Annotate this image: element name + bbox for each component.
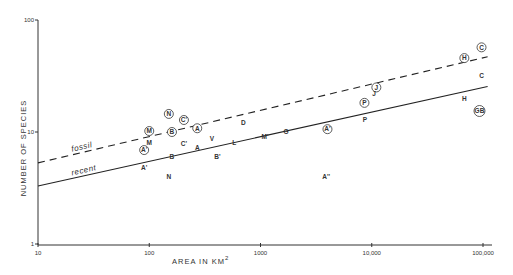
point-label: C: [479, 44, 484, 51]
point-label: J: [372, 90, 376, 97]
point-label: M: [147, 139, 152, 146]
fossil-fit-line: [38, 57, 488, 163]
x-tick-label: 10,000: [363, 250, 382, 256]
recent-point: M': [262, 133, 269, 140]
recent-point: G: [284, 128, 289, 135]
recent-point: A'': [322, 173, 330, 180]
point-label: P: [362, 99, 367, 106]
point-label: A: [195, 144, 200, 151]
fossil-point: H: [460, 54, 469, 63]
recent-point: L: [232, 139, 236, 146]
fossil-line-label: fossil: [70, 140, 93, 154]
point-label: H: [462, 95, 467, 102]
recent-point: N: [166, 173, 171, 180]
fossil-point: M: [145, 127, 154, 136]
recent-point: H: [462, 95, 467, 102]
y-tick-label: 10: [27, 129, 34, 135]
y-tick-label: 100: [24, 17, 35, 23]
recent-point: V: [210, 135, 215, 142]
point-label: M: [147, 127, 152, 134]
data-points: MA'NBC'AA'PJHCGBMA'BNC'AVB'DLM'GA''PJHC: [140, 43, 486, 180]
recent-point: P: [363, 116, 368, 123]
point-label: V: [210, 135, 215, 142]
fossil-point: C': [179, 115, 188, 124]
fossil-point: C: [477, 43, 486, 52]
point-label: B: [170, 128, 175, 135]
recent-point: M: [147, 139, 152, 146]
fossil-point: N: [164, 109, 173, 118]
x-axis-title: AREA IN KM2: [172, 255, 229, 266]
point-label: D: [241, 119, 246, 126]
point-label: H: [462, 54, 467, 61]
fossil-point: P: [360, 98, 369, 107]
point-label: P: [363, 116, 368, 123]
x-tick-label: 100,000: [472, 250, 494, 256]
fit-lines: fossilrecent: [38, 57, 488, 186]
point-label: L: [232, 139, 236, 146]
recent-point: C: [479, 72, 484, 79]
point-label: N: [166, 173, 171, 180]
fossil-point: A': [323, 125, 332, 134]
point-label: A': [141, 146, 148, 153]
fossil-point: A: [193, 124, 202, 133]
recent-point: C': [181, 140, 188, 147]
y-axis-title: NUMBER OF SPECIES: [19, 100, 28, 197]
point-label: B: [170, 153, 175, 160]
point-label: C': [181, 140, 188, 147]
recent-point: B': [214, 153, 221, 160]
species-area-chart: 110100 10100100010,000100,000 NUMBER OF …: [0, 0, 513, 275]
point-label: GB: [475, 107, 485, 114]
recent-point: A': [141, 164, 148, 171]
point-label: A': [324, 125, 331, 132]
recent-point: A: [195, 144, 200, 151]
x-tick-label: 100: [144, 250, 155, 256]
point-label: G: [284, 128, 289, 135]
point-label: C': [181, 116, 188, 123]
point-label: C: [479, 72, 484, 79]
point-label: N: [166, 110, 171, 117]
point-label: M': [262, 133, 269, 140]
x-tick-label: 1000: [254, 250, 268, 256]
fossil-point: A': [140, 146, 149, 155]
recent-point: D: [241, 119, 246, 126]
point-label: A': [141, 164, 148, 171]
y-tick-label: 1: [31, 241, 35, 247]
point-label: A'': [322, 173, 330, 180]
recent-point: B: [170, 153, 175, 160]
point-label: A: [195, 125, 200, 132]
x-tick-label: 10: [35, 250, 42, 256]
fossil-point: GB: [474, 105, 485, 116]
recent-point: J: [372, 90, 376, 97]
point-label: B': [214, 153, 221, 160]
fossil-point: B: [167, 128, 176, 137]
